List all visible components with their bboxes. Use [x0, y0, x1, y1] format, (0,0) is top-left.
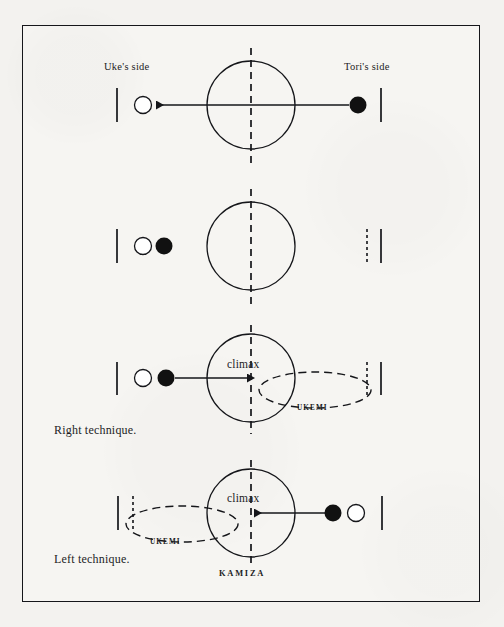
- row-1-marker-tori-black: [350, 97, 367, 114]
- row-4-climax-label: climax: [227, 492, 260, 504]
- row-4-ukemi-label: UKEMI: [150, 538, 181, 546]
- row-3-caption: Right technique.: [54, 423, 137, 438]
- row-4-group: [118, 460, 382, 566]
- row-3-group: [117, 325, 381, 434]
- row-1-group: [117, 48, 381, 163]
- figure-page: Uke's side Tori's side climax UKEMI Righ…: [0, 0, 504, 627]
- tori-side-label: Tori's side: [344, 61, 390, 72]
- row-4-ukemi-ellipse: [126, 506, 238, 542]
- row-3-marker-tori-black: [158, 370, 175, 387]
- row-2-marker-tori-black: [156, 238, 173, 255]
- row-4-marker-tori-black: [325, 505, 342, 522]
- row-2-marker-uke-white: [135, 238, 152, 255]
- row-3-marker-uke-white: [135, 370, 152, 387]
- row-3-ukemi-ellipse: [259, 372, 371, 408]
- row-3-climax-label: climax: [227, 358, 260, 370]
- diagram-canvas: [0, 0, 504, 627]
- row-1-marker-uke-white: [135, 97, 152, 114]
- row-4-caption: Left technique.: [54, 552, 130, 567]
- uke-side-label: Uke's side: [104, 61, 150, 72]
- row-3-ukemi-label: UKEMI: [297, 404, 328, 412]
- kamiza-label: KAMIZA: [219, 569, 265, 578]
- row-2-group: [117, 189, 381, 304]
- row-4-marker-uke-white: [348, 505, 365, 522]
